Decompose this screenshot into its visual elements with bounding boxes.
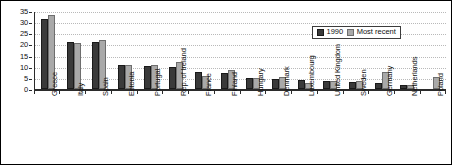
y-axis-tick-label: 20 (20, 42, 28, 50)
x-axis-label-cell: Hungary (240, 94, 266, 164)
y-axis-tick-label: 30 (20, 19, 28, 27)
x-axis-label: Portugal (153, 69, 161, 96)
bar (272, 79, 279, 89)
y-axis-tick-label: 35 (20, 8, 28, 16)
x-axis-labels: GreeceItalySpainEstoniaPortugalRep. of I… (34, 94, 446, 164)
x-axis-label-cell: Denmark (266, 94, 292, 164)
x-axis-label-cell: Italy (60, 94, 86, 164)
bar (400, 85, 407, 89)
x-axis-label: Rep. of Ireland (179, 48, 187, 96)
bar (41, 19, 48, 89)
x-axis-label-cell: Rep. of Ireland (163, 94, 189, 164)
y-axis-tick-label: 0 (24, 86, 28, 94)
bar (67, 42, 74, 89)
x-axis-label: United Kingdom (334, 44, 342, 96)
bar (298, 80, 305, 89)
x-axis-label: Finland (231, 72, 239, 96)
y-axis-tick-label: 15 (20, 53, 28, 61)
x-axis-label-cell: Spain (86, 94, 112, 164)
y-axis-tick-mark (29, 34, 32, 35)
x-axis-label: Estonia (128, 72, 136, 96)
x-axis-label-cell: Greece (34, 94, 60, 164)
x-axis-label: Denmark (282, 66, 290, 96)
x-axis-label: Sweden (359, 69, 367, 96)
x-axis-label: Poland (437, 73, 445, 96)
y-axis-tick-mark (29, 57, 32, 58)
x-axis-label-cell: France (189, 94, 215, 164)
bar (246, 78, 253, 89)
bar (195, 72, 202, 89)
chart-legend: 1990 Most recent (312, 26, 401, 39)
x-axis-label: Luxembourg (308, 55, 316, 96)
x-axis-label-cell: Finland (214, 94, 240, 164)
bar (144, 66, 151, 89)
x-axis-label: Spain (102, 77, 110, 96)
chart-figure: 05101520253035 GreeceItalySpainEstoniaPo… (0, 0, 452, 165)
x-axis-label-cell: Luxembourg (292, 94, 318, 164)
bar-group (61, 12, 87, 89)
y-axis-tick-label: 10 (20, 64, 28, 72)
bar (92, 42, 99, 89)
x-axis-label: Hungary (256, 68, 264, 96)
bar (118, 65, 125, 90)
y-axis-tick-mark (29, 90, 32, 91)
x-axis-label-cell: Netherlands (395, 94, 421, 164)
legend-label: 1990 (327, 28, 344, 36)
y-axis-tick-label: 25 (20, 31, 28, 39)
x-axis-label-cell: Estonia (111, 94, 137, 164)
x-axis-label: Greece (50, 72, 58, 96)
y-axis-tick-mark (29, 79, 32, 80)
legend-item-0: 1990 (317, 28, 343, 36)
x-axis-label-cell: Poland (420, 94, 446, 164)
x-axis-label-cell: United Kingdom (317, 94, 343, 164)
y-axis-tick-mark (29, 23, 32, 24)
y-axis-tick-mark (29, 45, 32, 46)
x-axis-label-cell: Sweden (343, 94, 369, 164)
bar (375, 83, 382, 89)
y-axis-tick-label: 5 (24, 75, 28, 83)
y-axis-tick-mark (29, 12, 32, 13)
bar (349, 82, 356, 89)
legend-item-1: Most recent (347, 28, 396, 36)
legend-swatch-icon (317, 29, 324, 36)
x-axis-label: France (205, 73, 213, 96)
y-axis-tick-mark (29, 68, 32, 69)
legend-label: Most recent (357, 28, 396, 36)
x-axis-label-cell: Germany (369, 94, 395, 164)
x-axis-label: Italy (76, 83, 84, 96)
x-axis-label: Netherlands (411, 57, 419, 96)
x-axis-label-cell: Portugal (137, 94, 163, 164)
y-axis: 05101520253035 (1, 12, 32, 90)
bar (169, 67, 176, 89)
bar (323, 81, 330, 89)
legend-swatch-icon (347, 29, 354, 36)
x-axis-label: Germany (385, 66, 393, 96)
bar (221, 73, 228, 89)
